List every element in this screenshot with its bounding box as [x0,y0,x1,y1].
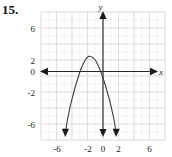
y-tick-label-minus-2: -2 [28,88,36,98]
figure-page: 15. [0,0,172,157]
y-axis-label: y [98,2,103,12]
x-tick-label-2: 2 [116,144,121,154]
y-tick-label-6: 6 [31,24,36,34]
y-tick-label-0: 0 [31,67,36,77]
parabola-left-arrowhead [62,129,69,137]
y-tick-label-2: 2 [31,56,36,66]
x-tick-label-minus-2: -2 [84,144,92,154]
parabola-curve [62,56,120,137]
parabola-graph: x y 6 2 0 -2 -6 -6 -2 0 2 6 [0,0,172,157]
y-tick-label-minus-6: -6 [28,120,36,130]
x-axis-right-arrowhead [150,68,158,75]
graph-svg: x y 6 2 0 -2 -6 -6 -2 0 2 6 [0,0,172,157]
x-tick-label-0: 0 [101,144,106,154]
x-axis [40,68,158,75]
y-axis-bottom-arrowhead [99,129,106,137]
x-tick-label-minus-6: -6 [53,144,61,154]
y-axis [99,11,106,137]
x-tick-label-6: 6 [147,144,152,154]
x-axis-label: x [158,67,163,77]
